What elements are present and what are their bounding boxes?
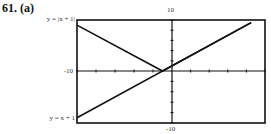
plot-area [0,0,271,134]
series-abs-line [77,23,251,71]
series-linear-line [77,23,251,118]
